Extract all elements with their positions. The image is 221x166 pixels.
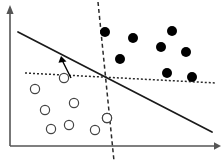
- open-data-point: [46, 124, 55, 133]
- open-data-point: [40, 105, 49, 114]
- filled-data-point: [100, 27, 110, 37]
- open-data-point: [102, 113, 111, 122]
- plot-canvas: [0, 0, 221, 166]
- filled-data-point: [128, 33, 138, 43]
- filled-data-point: [162, 68, 172, 78]
- filled-data-point: [167, 26, 177, 36]
- filled-data-point: [181, 47, 191, 57]
- classification-scatter-figure: [0, 0, 221, 166]
- filled-data-point: [187, 72, 197, 82]
- filled-data-point: [156, 42, 166, 52]
- open-data-point: [30, 84, 39, 93]
- open-data-point: [69, 98, 78, 107]
- open-data-point: [64, 120, 73, 129]
- open-data-point: [90, 125, 99, 134]
- plot-background: [0, 0, 221, 166]
- filled-data-point: [115, 54, 125, 64]
- open-data-point: [59, 73, 68, 82]
